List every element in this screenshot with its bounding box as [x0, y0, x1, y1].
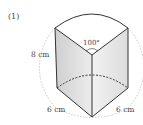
height-label: 8 cm: [31, 51, 49, 59]
radius-right-label: 6 cm: [116, 106, 134, 114]
radius-left-label: 6 cm: [47, 106, 65, 114]
angle-label: 100°: [83, 40, 100, 47]
